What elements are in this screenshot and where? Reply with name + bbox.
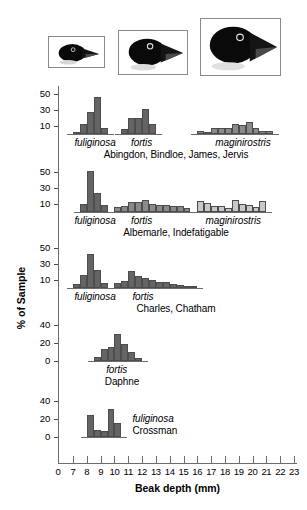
y-axis-tick-label: 10 xyxy=(28,121,50,130)
y-axis-tick-label: 10 xyxy=(28,199,50,208)
island-label: Abingdon, Bindloe, James, Jervis xyxy=(58,149,294,160)
histogram-bar xyxy=(101,283,108,288)
histogram-bar xyxy=(225,208,232,212)
y-axis-tick xyxy=(54,280,58,281)
island-label: Daphne xyxy=(105,376,139,387)
y-axis-tick xyxy=(54,325,58,326)
y-axis-tick-label: 10 xyxy=(28,275,50,284)
island-label: Charles, Chatham xyxy=(58,303,294,314)
histogram-bar xyxy=(128,202,135,212)
histogram-bar xyxy=(177,206,184,212)
histogram-bar xyxy=(73,284,80,288)
histogram-bar xyxy=(163,205,170,212)
histogram-bar xyxy=(259,201,266,212)
x-axis-line xyxy=(58,463,297,464)
histogram-bar xyxy=(156,205,163,212)
histogram-bar xyxy=(87,415,94,437)
y-axis-tick xyxy=(54,126,58,127)
y-axis-tick xyxy=(54,248,58,249)
histogram-bar xyxy=(246,122,253,134)
species-label: fortis xyxy=(131,215,152,226)
histogram-bar xyxy=(114,423,121,437)
histogram-bar xyxy=(204,203,211,212)
y-axis-tick xyxy=(54,188,58,189)
histogram-bar xyxy=(101,205,108,212)
histogram-bar xyxy=(218,128,225,134)
y-axis-tick-label: 30 xyxy=(28,105,50,114)
x-axis-tick xyxy=(156,456,157,463)
y-axis-tick-label: 30 xyxy=(28,259,50,268)
histogram-bar xyxy=(135,276,142,288)
species-baseline xyxy=(67,288,114,289)
species-baseline xyxy=(191,212,272,213)
y-axis-caption: % of Sample xyxy=(15,253,27,343)
histogram-bar xyxy=(253,207,260,212)
histogram-bar xyxy=(135,358,142,361)
y-axis-tick-label: 20 xyxy=(28,338,50,347)
histogram-bar xyxy=(246,205,253,212)
finch-beak-depth-figure: % of Sample 103050fuliginosafortismagini… xyxy=(0,0,307,510)
histogram-bar xyxy=(94,97,101,134)
histogram-bar xyxy=(87,254,94,288)
y-axis-tick xyxy=(54,401,58,402)
species-label: fuliginosa xyxy=(132,413,173,424)
histogram-bar xyxy=(232,200,239,212)
y-axis-tick-label: 0 xyxy=(28,356,50,365)
histogram-bar xyxy=(108,409,115,437)
x-axis-tick xyxy=(239,456,240,463)
histogram-bar xyxy=(149,204,156,212)
histogram-bar xyxy=(197,201,204,212)
small-ground-finch-head-icon xyxy=(48,36,105,68)
y-axis-tick xyxy=(54,94,58,95)
species-label: fortis xyxy=(106,364,127,375)
histogram-bar xyxy=(114,334,121,361)
x-axis-tick xyxy=(170,456,171,463)
histogram-bar xyxy=(94,270,101,288)
y-axis-tick-label: 20 xyxy=(28,414,50,423)
histogram-bar xyxy=(142,278,149,288)
histogram-bar xyxy=(232,124,239,134)
y-axis-tick-label: 30 xyxy=(28,183,50,192)
histogram-bar xyxy=(121,129,128,134)
histogram-bar xyxy=(163,282,170,288)
species-label: fortis xyxy=(132,291,153,302)
histogram-bar xyxy=(204,132,211,134)
histogram-bar xyxy=(225,128,232,134)
x-axis-caption: Beak depth (mm) xyxy=(58,482,297,494)
x-axis-tick xyxy=(184,456,185,463)
histogram-bar xyxy=(177,285,184,288)
histogram-bar xyxy=(94,357,101,361)
histogram-bar xyxy=(114,207,121,212)
y-axis-tick-label: 0 xyxy=(28,432,50,441)
histogram-bar xyxy=(218,206,225,212)
histogram-bar xyxy=(149,280,156,288)
histogram-bar xyxy=(114,283,121,288)
species-label: maginirostris xyxy=(215,137,270,148)
x-axis-tick xyxy=(266,456,267,463)
histogram-bar xyxy=(142,200,149,212)
species-label: fuliginosa xyxy=(74,137,115,148)
y-axis-tick xyxy=(54,264,58,265)
histogram-bar xyxy=(170,284,177,288)
histogram-bar xyxy=(184,286,191,288)
histogram-bar xyxy=(128,271,135,288)
histogram-bar xyxy=(80,275,87,288)
y-axis-tick-label: 50 xyxy=(28,89,50,98)
large-ground-finch-head-icon xyxy=(200,18,281,76)
y-axis-tick-label: 50 xyxy=(28,243,50,252)
y-axis-tick-label: 40 xyxy=(28,320,50,329)
histogram-bar xyxy=(253,128,260,134)
x-axis-tick xyxy=(142,456,143,463)
histogram-bar xyxy=(73,132,80,134)
y-axis-tick xyxy=(54,204,58,205)
histogram-bar xyxy=(142,109,149,134)
species-baseline xyxy=(81,437,128,438)
histogram-bar xyxy=(197,131,204,134)
species-baseline xyxy=(88,361,148,362)
histogram-bar xyxy=(259,131,266,134)
species-label: fuliginosa xyxy=(74,291,115,302)
histogram-bar xyxy=(211,128,218,134)
histogram-bar xyxy=(135,202,142,212)
histogram-bar xyxy=(239,125,246,134)
x-axis-tick xyxy=(294,456,295,463)
